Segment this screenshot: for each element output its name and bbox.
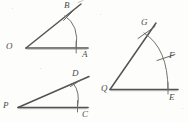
ray-Q-through-G [110, 23, 156, 90]
figure-angle-O [26, 1, 88, 54]
scan-speck [40, 68, 41, 69]
label-E: E [169, 93, 175, 102]
label-P: P [3, 101, 9, 110]
label-F: F [169, 51, 175, 60]
label-D: D [72, 69, 79, 78]
figure-page: O A B P C D Q E G F [0, 0, 188, 122]
label-O: O [6, 42, 13, 51]
label-G: G [141, 18, 148, 27]
scan-speck [12, 8, 13, 9]
label-B: B [64, 1, 70, 10]
arc-G-through-F-to-E [144, 33, 168, 90]
label-C: C [82, 110, 88, 119]
stray-mark-above-B [78, 1, 83, 3]
label-Q: Q [101, 84, 108, 93]
figure-angle-Q [110, 23, 178, 94]
scan-speck [100, 14, 101, 15]
label-A: A [82, 50, 88, 59]
geometry-figures-canvas [0, 0, 188, 122]
tick-at-D [71, 80, 82, 87]
figure-angle-P [18, 77, 89, 113]
arc-B-to-A [65, 16, 77, 48]
scan-speck [182, 108, 183, 109]
